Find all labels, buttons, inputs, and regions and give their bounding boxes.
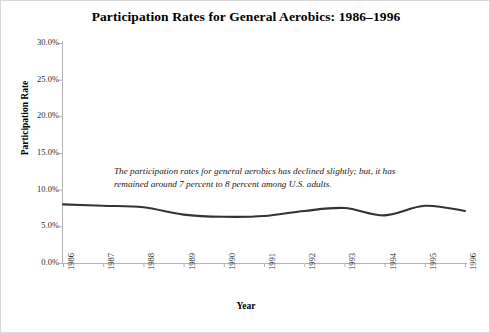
chart-page: Participation Rates for General Aerobics… xyxy=(0,0,490,333)
x-tick-label: 1994 xyxy=(389,253,398,270)
x-tick-label: 1986 xyxy=(67,253,76,270)
x-tick-label: 1996 xyxy=(469,253,478,270)
x-tick-label: 1987 xyxy=(107,253,116,270)
x-tick-label: 1993 xyxy=(348,253,357,270)
y-axis-title: Participation Rate xyxy=(20,58,30,178)
x-tick-label: 1990 xyxy=(228,253,237,270)
chart-annotation: The participation rates for general aero… xyxy=(114,165,396,190)
x-tick-label: 1991 xyxy=(268,253,277,270)
x-tick-label: 1988 xyxy=(147,253,156,270)
plot-area: 0.0%5.0%10.0%15.0%20.0%25.0%30.0% 198619… xyxy=(1,1,490,333)
x-axis-title: Year xyxy=(1,301,490,311)
x-tick-label: 1995 xyxy=(429,253,438,270)
x-tick-label: 1992 xyxy=(308,253,317,270)
x-tick-label: 1989 xyxy=(188,253,197,270)
